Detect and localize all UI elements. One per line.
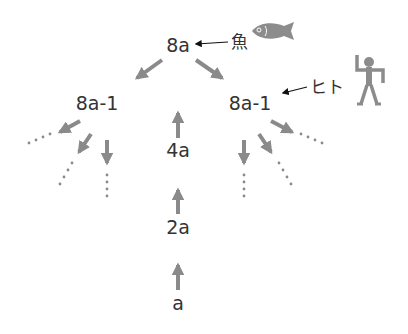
arrow-right-desc-1 <box>271 121 292 132</box>
node-a: a <box>172 292 184 314</box>
human-figure-icon <box>357 55 383 104</box>
node-8a: 8a <box>166 34 190 56</box>
fish-label: 魚 <box>231 32 248 52</box>
fish-pointer-arrow <box>196 42 228 44</box>
dots-left-1 <box>28 133 52 145</box>
node-8a-1-left: 8a-1 <box>76 92 119 114</box>
arrow-8a-to-left <box>137 60 162 78</box>
node-8a-1-right: 8a-1 <box>229 92 272 114</box>
human-pointer-arrow <box>283 87 307 93</box>
gene-duplication-diagram: 8a 8a-1 8a-1 4a 2a a <box>0 0 408 334</box>
dots-left-3 <box>106 174 109 198</box>
human-label: ヒト <box>310 77 344 97</box>
dots-left-2 <box>59 162 74 186</box>
arrow-left-desc-1 <box>60 121 80 132</box>
arrow-right-desc-2 <box>259 134 271 152</box>
node-4a: 4a <box>166 139 190 161</box>
node-2a: 2a <box>166 216 190 238</box>
arrow-left-desc-2 <box>79 134 91 152</box>
arrow-8a-to-right <box>196 60 222 78</box>
fish-icon <box>252 22 294 40</box>
dots-right-3 <box>243 174 246 198</box>
dots-right-2 <box>278 162 293 186</box>
dots-right-1 <box>300 133 324 145</box>
